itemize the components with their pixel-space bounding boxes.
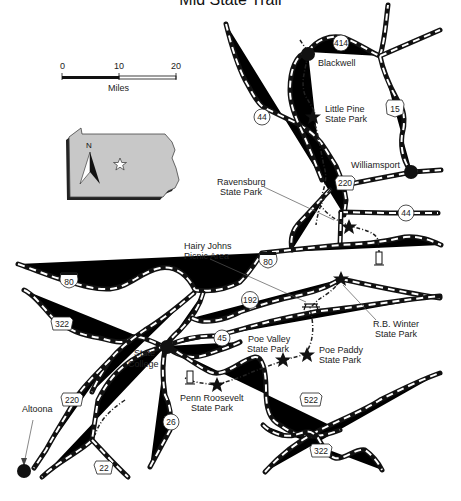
svg-text:22: 22	[99, 463, 109, 473]
route-shield-220-south: 220	[61, 393, 83, 406]
city-dot-williamsport[interactable]	[404, 165, 418, 179]
route-shield-i80-west: 80	[60, 272, 78, 288]
city-dot-blackwell[interactable]	[301, 47, 315, 61]
svg-text:44: 44	[257, 112, 267, 122]
svg-text:192: 192	[243, 295, 257, 305]
route-shield-44-east: 44	[398, 205, 414, 221]
route-shield-322-east: 322	[310, 444, 332, 457]
route-shield-192: 192	[242, 292, 259, 309]
park-label-rb-winter-1: R.B. Winter	[373, 319, 419, 329]
svg-text:45: 45	[217, 333, 227, 343]
fire-tower-icon-penn-roosevelt	[185, 371, 195, 384]
route-shield-15: 15	[386, 100, 404, 117]
svg-text:322: 322	[55, 319, 69, 329]
svg-text:220: 220	[338, 178, 352, 188]
route-shield-26: 26	[163, 414, 179, 430]
svg-text:414: 414	[334, 38, 348, 48]
city-label-state-college-2: College	[128, 359, 159, 369]
city-dot-state-college[interactable]	[160, 340, 174, 354]
leader-altoona	[24, 420, 33, 464]
city-dot-altoona[interactable]	[17, 464, 31, 478]
svg-text:322: 322	[314, 446, 328, 456]
route-shield-522: 522	[300, 393, 322, 406]
city-label-altoona: Altoona	[22, 404, 53, 414]
park-label-hairy-johns-2: Picnic Area	[184, 251, 229, 261]
route-shield-22: 22	[94, 461, 113, 474]
park-label-ravensburg-1: Ravensburg	[217, 177, 266, 187]
park-label-rb-winter-2: State Park	[375, 329, 418, 339]
svg-text:522: 522	[304, 395, 318, 405]
north-label: N	[86, 141, 92, 150]
leader-ravensburg	[264, 187, 334, 220]
city-label-state-college-1: State	[134, 348, 155, 358]
scale-tick-10: 10	[114, 61, 124, 71]
svg-text:80: 80	[263, 257, 273, 267]
park-label-poe-valley-1: Poe Valley	[248, 334, 291, 344]
svg-text:220: 220	[65, 395, 79, 405]
park-label-poe-paddy-2: State Park	[319, 355, 362, 365]
park-label-little-pine-1: Little Pine	[325, 104, 365, 114]
route-shield-220-north: 220	[335, 176, 355, 190]
park-label-poe-valley-2: State Park	[247, 344, 290, 354]
route-shield-414: 414	[333, 35, 349, 51]
route-shield-45: 45	[214, 330, 230, 346]
park-label-penn-roosevelt-2: State Park	[191, 403, 234, 413]
park-label-hairy-johns-1: Hairy Johns	[184, 241, 232, 251]
star-icon-poe-paddy[interactable]	[299, 347, 315, 362]
city-label-blackwell: Blackwell	[318, 58, 356, 68]
park-label-poe-paddy-1: Poe Paddy	[319, 345, 364, 355]
scale-unit: Miles	[108, 83, 130, 93]
pa-inset-map: N	[66, 128, 179, 200]
park-label-ravensburg-2: State Park	[220, 187, 263, 197]
picnic-table-icon	[302, 304, 320, 310]
svg-text:44: 44	[401, 208, 411, 218]
scale-bar: 0 10 20 Miles	[60, 61, 181, 93]
svg-text:26: 26	[166, 417, 176, 427]
park-label-penn-roosevelt-1: Penn Roosevelt	[180, 393, 244, 403]
trail-map: 0 10 20 Miles N	[0, 0, 461, 501]
fire-tower-icon-ravensburg	[374, 252, 384, 265]
svg-text:80: 80	[64, 277, 74, 287]
route-shield-i80-east: 80	[259, 252, 277, 268]
scale-tick-20: 20	[171, 61, 181, 71]
scale-tick-0: 0	[60, 61, 65, 71]
route-shield-44-north: 44	[254, 109, 270, 125]
svg-text:15: 15	[390, 104, 400, 114]
route-shield-322-west: 322	[51, 317, 73, 330]
city-label-williamsport: Williamsport	[351, 160, 401, 170]
park-label-little-pine-2: State Park	[325, 114, 368, 124]
